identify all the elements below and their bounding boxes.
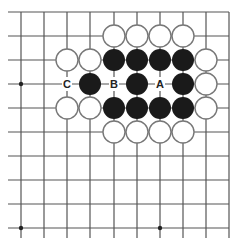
black-stone <box>149 49 171 71</box>
black-stone <box>103 49 125 71</box>
white-stone <box>103 121 125 143</box>
white-stone <box>79 49 101 71</box>
white-stone <box>79 97 101 119</box>
white-stone <box>126 121 148 143</box>
black-stone <box>172 49 194 71</box>
point-label-a: A <box>156 78 164 90</box>
white-stone <box>126 25 148 47</box>
black-stone <box>149 97 171 119</box>
black-stone <box>172 97 194 119</box>
black-stone <box>172 73 194 95</box>
star-point <box>19 226 23 230</box>
white-stone <box>56 49 78 71</box>
white-stone <box>149 25 171 47</box>
white-stone <box>172 25 194 47</box>
go-board: CBA <box>0 0 234 245</box>
white-stone <box>195 97 217 119</box>
star-point <box>158 226 162 230</box>
black-stone <box>79 73 101 95</box>
point-label-c: C <box>63 78 71 90</box>
black-stone <box>126 49 148 71</box>
point-label-b: B <box>110 78 118 90</box>
stones <box>56 25 217 143</box>
black-stone <box>126 97 148 119</box>
star-point <box>19 82 23 86</box>
white-stone <box>56 97 78 119</box>
white-stone <box>149 121 171 143</box>
black-stone <box>103 97 125 119</box>
white-stone <box>103 25 125 47</box>
white-stone <box>172 121 194 143</box>
white-stone <box>195 49 217 71</box>
white-stone <box>195 73 217 95</box>
black-stone <box>126 73 148 95</box>
